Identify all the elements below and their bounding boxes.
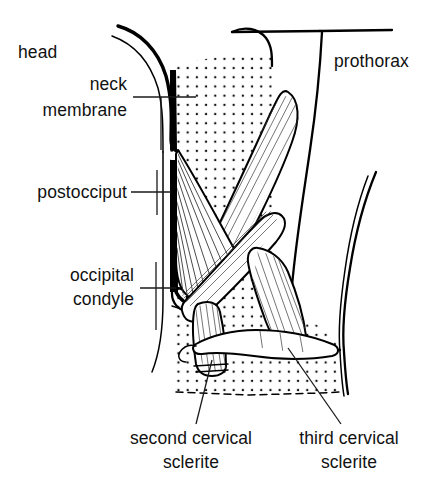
label-third-cervical-sclerite-line1: third cervical — [299, 428, 399, 448]
label-head: head — [18, 42, 57, 62]
label-third-cervical-sclerite-line2: sclerite — [321, 452, 377, 472]
label-postocciput: postocciput — [37, 182, 127, 202]
label-neck-membrane-line2: membrane — [43, 100, 127, 120]
label-prothorax: prothorax — [334, 51, 409, 71]
diagram-canvas: head neck membrane postocciput occipital… — [0, 0, 446, 493]
label-neck-membrane-line1: neck — [90, 74, 128, 94]
label-second-cervical-sclerite-line2: sclerite — [163, 452, 219, 472]
label-occipital-condyle-line1: occipital — [70, 265, 134, 285]
anatomical-figure: head neck membrane postocciput occipital… — [0, 0, 446, 493]
label-second-cervical-sclerite-line1: second cervical — [130, 428, 252, 448]
label-occipital-condyle-line2: condyle — [73, 289, 134, 309]
